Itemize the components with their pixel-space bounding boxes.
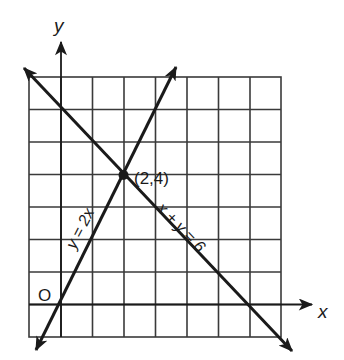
point-label: (2,4) — [134, 169, 169, 188]
coordinate-graph: y x O (2,4) y = 2x x + y = 6 — [0, 0, 344, 360]
y-axis-label: y — [52, 15, 65, 36]
origin-label: O — [38, 286, 51, 305]
intersection-point — [119, 170, 129, 180]
x-axis-label: x — [317, 301, 329, 322]
